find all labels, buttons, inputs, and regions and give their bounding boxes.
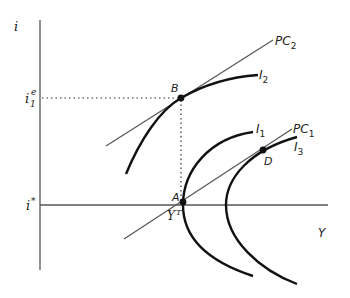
- point-B-label: B: [171, 82, 179, 95]
- i2-curve: [126, 75, 258, 174]
- point-A: [180, 199, 187, 206]
- i3-curve: [226, 137, 297, 284]
- point-A-label: A: [171, 191, 180, 204]
- pc2-label: PC2: [275, 34, 296, 51]
- x-axis-label: Y: [318, 226, 327, 240]
- i3-label: I3: [294, 140, 303, 157]
- i1-label: I1: [256, 122, 265, 139]
- tick-i1e-sub: 1: [30, 99, 36, 109]
- i1-curve: [183, 132, 253, 276]
- diagram-canvas: i Y i e 1 i * Y T B A D PC2 PC1 I2 I1 I3: [0, 0, 350, 298]
- tick-yt-label: Y: [167, 209, 176, 223]
- pc1-line: [124, 129, 292, 239]
- tick-i1e-sup: e: [31, 87, 36, 97]
- point-B: [178, 95, 185, 102]
- tick-istar-sup: *: [31, 196, 36, 206]
- i2-label: I2: [259, 68, 268, 85]
- tick-istar-label: i: [26, 198, 30, 213]
- point-D-label: D: [264, 155, 272, 168]
- point-D: [260, 147, 267, 154]
- tick-i1e-label: i: [25, 91, 29, 106]
- tick-yt-sup: T: [176, 208, 182, 217]
- y-axis-label: i: [14, 19, 18, 34]
